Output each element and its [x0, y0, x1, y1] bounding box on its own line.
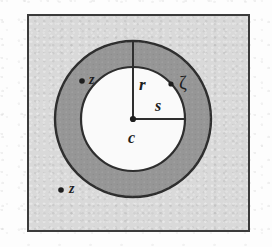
label-annulus-point-z: z — [89, 73, 94, 87]
outside-z-point-marker — [58, 187, 64, 193]
figure-page: r s c ζ z z — [0, 0, 272, 247]
zeta-point-marker — [168, 81, 173, 86]
center-point-marker — [130, 116, 136, 122]
annulus-svg — [29, 16, 248, 230]
label-center-c: c — [128, 130, 135, 146]
label-radius-s: s — [155, 98, 161, 114]
label-outside-point-z: z — [69, 182, 74, 196]
figure-frame: r s c ζ z z — [27, 14, 250, 232]
label-boundary-zeta: ζ — [179, 73, 187, 92]
label-radius-r: r — [139, 76, 146, 93]
annulus-z-point-marker — [79, 78, 85, 84]
annulus-diagram: r s c ζ z z — [29, 16, 248, 230]
